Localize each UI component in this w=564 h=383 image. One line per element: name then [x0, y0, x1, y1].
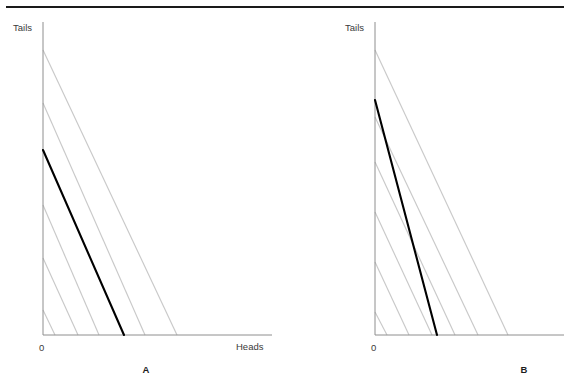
figure-background: [0, 0, 564, 383]
panel-a-x-axis-label: Heads: [236, 341, 264, 352]
panel-b-y-axis-label: Tails: [345, 22, 364, 33]
panel-b-origin-label: 0: [371, 342, 376, 353]
figure-canvas: Tails Heads 0 A Tails 0 B: [0, 0, 564, 383]
panel-a-caption: A: [143, 364, 150, 375]
panel-a-y-axis-label: Tails: [13, 22, 32, 33]
panel-a-origin-label: 0: [39, 342, 44, 353]
panel-b-caption: B: [521, 364, 528, 375]
figure-root: Tails Heads 0 A Tails 0 B: [0, 0, 564, 383]
